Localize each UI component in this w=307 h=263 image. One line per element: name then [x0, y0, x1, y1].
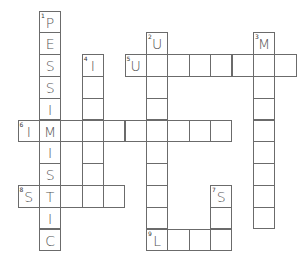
crossword-cell[interactable]: [189, 120, 211, 143]
crossword-cell[interactable]: I: [39, 141, 61, 164]
cell-letter: I: [40, 210, 60, 228]
crossword-cell[interactable]: 7S: [210, 185, 232, 208]
crossword-cell[interactable]: [253, 207, 275, 230]
crossword-cell[interactable]: 9L: [146, 229, 168, 252]
crossword-cell[interactable]: [253, 54, 275, 77]
cell-letter: M: [254, 35, 274, 53]
crossword-cell[interactable]: [60, 120, 82, 143]
crossword-cell[interactable]: C: [39, 229, 61, 252]
cell-letter: P: [40, 14, 60, 32]
cell-letter: S: [19, 188, 39, 206]
crossword-cell[interactable]: [146, 54, 168, 77]
crossword-cell[interactable]: [232, 54, 254, 77]
crossword-cell[interactable]: [82, 76, 104, 99]
crossword-cell[interactable]: T: [39, 185, 61, 208]
crossword-cell[interactable]: [82, 120, 104, 143]
crossword-cell[interactable]: [253, 120, 275, 143]
cell-letter: S: [211, 188, 231, 206]
crossword-cell[interactable]: [146, 76, 168, 99]
crossword-cell[interactable]: [103, 120, 125, 143]
crossword-cell[interactable]: 8S: [18, 185, 40, 208]
crossword-cell[interactable]: [82, 141, 104, 164]
crossword-cell[interactable]: 4I: [82, 54, 104, 77]
crossword-cell[interactable]: 5U: [125, 54, 147, 77]
crossword-cell[interactable]: [253, 185, 275, 208]
crossword-cell[interactable]: M: [39, 120, 61, 143]
cell-letter: U: [126, 57, 146, 75]
crossword-cell[interactable]: I: [39, 207, 61, 230]
cell-letter: E: [40, 35, 60, 53]
crossword-cell[interactable]: 2U: [146, 32, 168, 55]
crossword-cell[interactable]: [82, 98, 104, 121]
cell-letter: L: [147, 232, 167, 250]
crossword-cell[interactable]: [125, 120, 147, 143]
crossword-cell[interactable]: [146, 163, 168, 186]
cell-letter: I: [19, 123, 39, 141]
crossword-cell[interactable]: [210, 229, 232, 252]
crossword-cell[interactable]: [210, 54, 232, 77]
crossword-cell[interactable]: [274, 54, 296, 77]
crossword-cell[interactable]: [210, 207, 232, 230]
cell-letter: M: [40, 123, 60, 141]
cell-letter: U: [147, 35, 167, 53]
crossword-cell[interactable]: I: [39, 98, 61, 121]
crossword-cell[interactable]: 6I: [18, 120, 40, 143]
crossword-cell[interactable]: [253, 76, 275, 99]
cell-letter: S: [40, 166, 60, 184]
crossword-cell[interactable]: [146, 141, 168, 164]
crossword-cell[interactable]: [146, 207, 168, 230]
crossword-cell[interactable]: 3M: [253, 32, 275, 55]
crossword-cell[interactable]: E: [39, 32, 61, 55]
cell-letter: I: [40, 144, 60, 162]
cell-letter: T: [40, 188, 60, 206]
crossword-cell[interactable]: [189, 229, 211, 252]
crossword-cell[interactable]: S: [39, 163, 61, 186]
crossword-cell[interactable]: [146, 120, 168, 143]
crossword-cell[interactable]: [167, 229, 189, 252]
crossword-cell[interactable]: [60, 185, 82, 208]
cell-letter: S: [40, 57, 60, 75]
crossword-cell[interactable]: [253, 163, 275, 186]
crossword-cell[interactable]: [167, 54, 189, 77]
crossword-cell[interactable]: [146, 98, 168, 121]
crossword-grid: 1PESSIMISTIC2U9L3M4I5U6I7S8S: [0, 0, 307, 263]
cell-letter: S: [40, 79, 60, 97]
crossword-cell[interactable]: [253, 141, 275, 164]
crossword-cell[interactable]: [167, 120, 189, 143]
crossword-cell[interactable]: [146, 185, 168, 208]
crossword-cell[interactable]: S: [39, 76, 61, 99]
cell-letter: C: [40, 232, 60, 250]
crossword-cell[interactable]: S: [39, 54, 61, 77]
crossword-cell[interactable]: [82, 185, 104, 208]
crossword-cell[interactable]: [253, 98, 275, 121]
cell-letter: I: [83, 57, 103, 75]
crossword-cell[interactable]: [82, 163, 104, 186]
crossword-cell[interactable]: [103, 185, 125, 208]
crossword-cell[interactable]: [210, 120, 232, 143]
crossword-cell[interactable]: [189, 54, 211, 77]
crossword-cell[interactable]: 1P: [39, 11, 61, 34]
cell-letter: I: [40, 101, 60, 119]
